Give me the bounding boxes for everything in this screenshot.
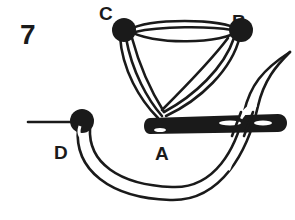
loop-b-a <box>162 36 240 116</box>
label-point-c: C <box>99 4 113 23</box>
label-point-d: D <box>54 143 68 162</box>
embroidery-diagram <box>0 0 295 220</box>
loop-c-b <box>128 21 240 41</box>
label-point-a: A <box>155 144 169 163</box>
step-number: 7 <box>20 21 36 49</box>
label-point-b: B <box>232 12 246 31</box>
loop-c-a <box>120 36 164 118</box>
point-c-dot <box>112 18 136 42</box>
